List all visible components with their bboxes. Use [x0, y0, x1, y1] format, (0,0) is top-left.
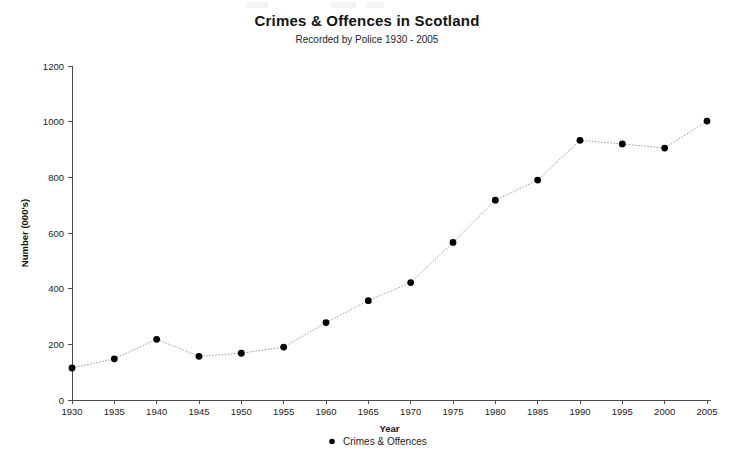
x-tick-label: 1985 — [527, 406, 548, 417]
data-point-marker — [111, 355, 118, 362]
series-line — [72, 121, 707, 368]
data-point-marker — [196, 353, 203, 360]
x-tick-label: 1975 — [442, 406, 463, 417]
data-point-marker — [153, 336, 160, 343]
data-point-marker — [577, 137, 584, 144]
data-point-marker — [492, 197, 499, 204]
x-tick-label: 1950 — [231, 406, 252, 417]
x-tick-label: 1970 — [400, 406, 421, 417]
x-axis-title: Year — [379, 423, 399, 434]
x-tick-label: 2000 — [654, 406, 675, 417]
x-tick-label: 1980 — [485, 406, 506, 417]
y-axis: 020040060080010001200 — [43, 61, 72, 406]
y-tick-label: 400 — [48, 283, 64, 294]
y-tick-label: 200 — [48, 339, 64, 350]
line-chart-plot: 020040060080010001200 193019351940194519… — [0, 0, 734, 465]
chart-legend: Crimes & Offences — [329, 436, 427, 447]
x-tick-label: 1990 — [569, 406, 590, 417]
data-point-marker — [280, 344, 287, 351]
y-tick-label: 0 — [59, 395, 64, 406]
x-tick-label: 1965 — [358, 406, 379, 417]
data-point-marker — [704, 118, 711, 125]
y-tick-label: 1000 — [43, 116, 64, 127]
data-point-marker — [450, 239, 457, 246]
data-point-marker — [323, 319, 330, 326]
axis-titles: YearNumber (000's) — [19, 199, 400, 434]
x-tick-label: 1935 — [104, 406, 125, 417]
x-tick-label: 2005 — [696, 406, 717, 417]
legend-dot-marker — [329, 439, 335, 445]
x-axis: 1930193519401945195019551960196519701975… — [61, 400, 717, 417]
data-point-marker — [69, 365, 76, 372]
data-point-marker — [238, 350, 245, 357]
x-tick-label: 1945 — [188, 406, 209, 417]
y-axis-title: Number (000's) — [19, 199, 30, 267]
legend-entry-label: Crimes & Offences — [343, 436, 427, 447]
x-tick-label: 1995 — [612, 406, 633, 417]
y-tick-label: 1200 — [43, 61, 64, 72]
chart-page: Crimes & Offences in Scotland Recorded b… — [0, 0, 734, 465]
x-tick-label: 1940 — [146, 406, 167, 417]
data-point-marker — [619, 141, 626, 148]
data-series-crimes-offences — [69, 118, 711, 372]
data-point-marker — [407, 279, 414, 286]
x-tick-label: 1955 — [273, 406, 294, 417]
x-tick-label: 1930 — [61, 406, 82, 417]
y-tick-label: 800 — [48, 172, 64, 183]
x-tick-label: 1960 — [315, 406, 336, 417]
data-point-marker — [661, 145, 668, 152]
data-point-marker — [534, 177, 541, 184]
data-point-marker — [365, 297, 372, 304]
y-tick-label: 600 — [48, 228, 64, 239]
